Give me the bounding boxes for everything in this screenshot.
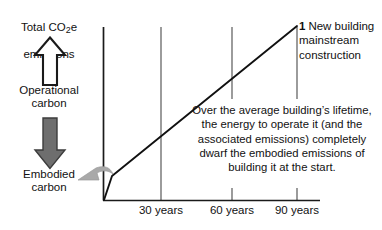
- callout-new-building: 1New building mainstream construction: [299, 19, 381, 62]
- tick-label-30-years: 30 years: [128, 204, 194, 216]
- tick-label-90-years: 90 years: [264, 204, 330, 216]
- tick-label-60-years: 60 years: [199, 204, 265, 216]
- explanatory-note: Over the average building’s lifetime, th…: [188, 103, 376, 175]
- callout-number: 1: [299, 20, 305, 32]
- embodied-carbon-pointer: [78, 167, 113, 180]
- callout-text: New building mainstream construction: [299, 20, 374, 61]
- carbon-emissions-figure: Total CO2e emissions Operational carbon …: [0, 0, 382, 230]
